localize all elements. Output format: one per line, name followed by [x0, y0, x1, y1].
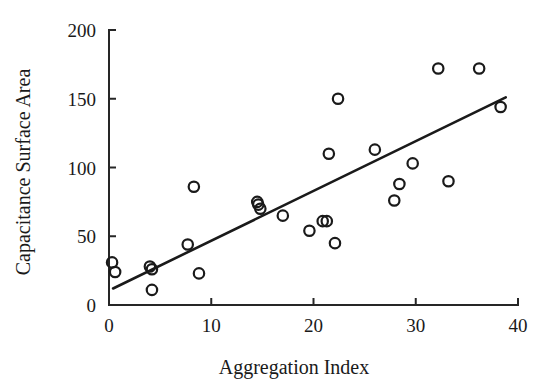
y-tick-labels: 050100150200 — [68, 20, 97, 316]
data-point-marker — [394, 179, 404, 189]
data-point-marker — [324, 149, 334, 159]
data-point-marker — [194, 268, 204, 278]
data-point-marker — [278, 210, 288, 220]
x-tick-labels: 010203040 — [104, 315, 527, 336]
x-tick-label: 40 — [509, 315, 528, 336]
data-point-marker — [370, 144, 380, 154]
x-axis-title: Aggregation Index — [219, 356, 370, 379]
y-tick-label: 0 — [87, 295, 97, 316]
y-tick-label: 200 — [68, 20, 97, 41]
data-point-marker — [330, 238, 340, 248]
axes — [109, 30, 518, 305]
y-tick-label: 100 — [68, 158, 97, 179]
data-point-marker — [189, 182, 199, 192]
data-point-marker — [147, 285, 157, 295]
data-point-marker — [495, 102, 505, 112]
data-point-marker — [304, 226, 314, 236]
scatter-plot-figure: 010203040 050100150200 Aggregation Index… — [0, 0, 551, 392]
data-point-marker — [183, 239, 193, 249]
y-tick-label: 50 — [77, 226, 96, 247]
data-point-marker — [407, 158, 417, 168]
x-tick-label: 10 — [202, 315, 221, 336]
x-tick-label: 20 — [304, 315, 323, 336]
chart-canvas: 010203040 050100150200 Aggregation Index… — [0, 0, 551, 392]
data-point-marker — [333, 94, 343, 104]
data-points — [107, 63, 506, 295]
data-point-marker — [433, 63, 443, 73]
data-point-marker — [110, 267, 120, 277]
tick-marks — [109, 30, 518, 305]
x-tick-label: 30 — [406, 315, 425, 336]
x-tick-label: 0 — [104, 315, 114, 336]
data-point-marker — [443, 176, 453, 186]
data-point-marker — [389, 195, 399, 205]
data-point-marker — [474, 63, 484, 73]
regression-trendline — [113, 97, 506, 288]
y-axis-title: Capacitance Surface Area — [12, 69, 35, 276]
trendline — [113, 97, 506, 288]
y-tick-label: 150 — [68, 89, 97, 110]
